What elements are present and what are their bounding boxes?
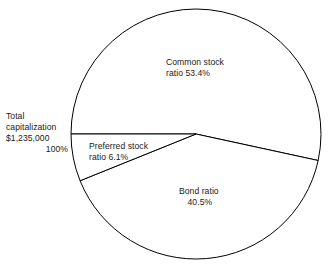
total-capitalization-label: Total capitalization $1,235,000 (6, 111, 56, 145)
pie-chart-figure: Total capitalization $1,235,000 100% Com… (0, 0, 329, 267)
preferred-label-line-2: ratio 6.1% (89, 152, 148, 163)
pie-slices (71, 9, 321, 259)
common-label-line-2: ratio 53.4% (166, 68, 224, 79)
slice-label-preferred-stock: Preferred stock ratio 6.1% (89, 141, 148, 163)
total-line-2: capitalization (6, 122, 56, 133)
preferred-label-line-1: Preferred stock (89, 141, 148, 152)
slice-label-common-stock: Common stock ratio 53.4% (166, 57, 224, 79)
bond-label-line-1: Bond ratio (179, 186, 219, 197)
total-percent-label: 100% (6, 144, 68, 155)
common-label-line-1: Common stock (166, 57, 224, 68)
total-line-1: Total (6, 111, 56, 122)
slice-label-bond: Bond ratio 40.5% (179, 186, 219, 208)
bond-label-line-2: 40.5% (179, 197, 219, 208)
total-line-3: $1,235,000 (6, 133, 56, 144)
